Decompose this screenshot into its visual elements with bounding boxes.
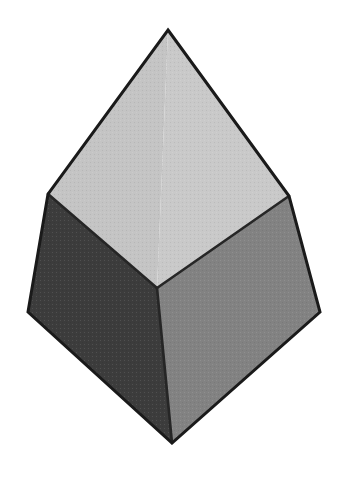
geometric-solid-figure bbox=[0, 0, 345, 480]
solid-illustration-canvas bbox=[0, 0, 345, 480]
